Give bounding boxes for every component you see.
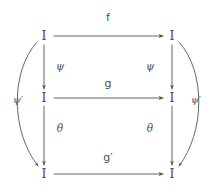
edge-label-g-prime: g′ <box>103 152 112 163</box>
edge-label-g: g <box>105 78 112 89</box>
edge-label-theta-left: θ <box>57 123 63 134</box>
node-bottom-right: I <box>170 168 175 181</box>
edge-label-theta-right: θ <box>147 123 153 134</box>
node-middle-right: I <box>170 92 175 105</box>
edge-label-psi-right: ψ <box>146 61 154 72</box>
node-top-right: I <box>170 30 175 43</box>
node-middle-left: I <box>42 92 47 105</box>
edge-label-psi-prime-left: ψ′ <box>13 95 23 105</box>
edge-label-f: f <box>106 12 110 23</box>
edge-label-psi-prime-right: ψ′ <box>191 95 201 105</box>
commutative-diagram: I I I I I I f g g′ ψ ψ θ θ ψ′ ψ′ <box>0 0 214 190</box>
node-bottom-left: I <box>42 168 47 181</box>
node-top-left: I <box>42 30 47 43</box>
edge-label-psi-left: ψ <box>56 61 64 72</box>
